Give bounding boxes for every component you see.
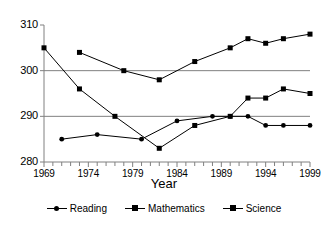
y-tick-label-280: 280 <box>12 155 38 167</box>
legend-marker-circle-icon <box>47 204 67 213</box>
datapoint-science-1990 <box>228 114 233 119</box>
y-tick-label-290: 290 <box>12 109 38 121</box>
datapoint-reading-1999 <box>308 123 313 128</box>
chart-legend: ReadingMathematicsScience <box>0 203 328 214</box>
series-line-mathematics <box>79 34 310 80</box>
legend-marker-square-icon <box>125 204 145 213</box>
legend-label: Reading <box>70 203 107 214</box>
datapoint-reading-1996 <box>281 123 286 128</box>
datapoint-reading-1984 <box>175 119 180 124</box>
datapoint-mathematics-1999 <box>308 32 313 37</box>
datapoint-mathematics-1990 <box>228 45 233 50</box>
datapoint-mathematics-1992 <box>245 36 250 41</box>
data-series-layer <box>42 32 313 151</box>
gridlines <box>44 71 310 117</box>
legend-item-reading[interactable]: Reading <box>47 203 107 214</box>
legend-label: Science <box>246 203 282 214</box>
datapoint-reading-1992 <box>246 114 251 119</box>
datapoint-science-1982 <box>157 146 162 151</box>
legend-label: Mathematics <box>148 203 205 214</box>
datapoint-mathematics-1986 <box>192 59 197 64</box>
y-tick-label-300: 300 <box>12 64 38 76</box>
datapoint-science-1999 <box>308 91 313 96</box>
datapoint-mathematics-1994 <box>263 41 268 46</box>
datapoint-science-1977 <box>112 114 117 119</box>
datapoint-mathematics-1978 <box>121 68 126 73</box>
datapoint-mathematics-1996 <box>281 36 286 41</box>
series-line-science <box>44 48 310 148</box>
legend-item-mathematics[interactable]: Mathematics <box>125 203 205 214</box>
datapoint-reading-1988 <box>210 114 215 119</box>
plot-area <box>0 0 328 226</box>
datapoint-science-1994 <box>263 96 268 101</box>
x-axis-title: Year <box>0 176 328 191</box>
datapoint-science-1992 <box>245 96 250 101</box>
datapoint-reading-1994 <box>263 123 268 128</box>
datapoint-science-1986 <box>192 123 197 128</box>
datapoint-reading-1971 <box>59 137 64 142</box>
datapoint-science-1996 <box>281 86 286 91</box>
datapoint-science-1969 <box>42 45 47 50</box>
y-tick-label-310: 310 <box>12 18 38 30</box>
datapoint-reading-1975 <box>95 132 100 137</box>
datapoint-reading-1980 <box>139 137 144 142</box>
legend-marker-square-icon <box>223 204 243 213</box>
datapoint-mathematics-1973 <box>77 50 82 55</box>
datapoint-mathematics-1982 <box>157 77 162 82</box>
legend-item-science[interactable]: Science <box>223 203 282 214</box>
line-chart: 280290300310 196919741979198419891994199… <box>0 0 328 226</box>
axis-lines <box>44 25 310 162</box>
datapoint-science-1973 <box>77 86 82 91</box>
